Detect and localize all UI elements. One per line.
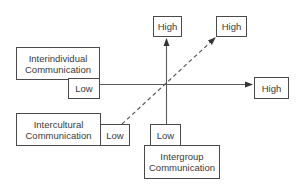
interindividual-low-box: Low: [68, 78, 100, 99]
intergroup-label-box: Intergroup Communication: [144, 145, 220, 179]
intergroup-high-label: High: [158, 21, 178, 32]
intergroup-label-line1: Intergroup: [149, 151, 215, 162]
intergroup-high-box: High: [153, 16, 182, 37]
intercultural-label-box: Intercultural Communication: [16, 113, 101, 146]
interindividual-label-box: Interindividual Communication: [16, 47, 100, 80]
intergroup-label-line2: Communication: [149, 162, 215, 173]
intercultural-high-label: High: [222, 21, 242, 32]
intercultural-low-box: Low: [100, 124, 130, 146]
interindividual-high-box: High: [254, 77, 289, 99]
interindividual-high-label: High: [262, 83, 282, 94]
intercultural-label-line1: Intercultural: [26, 119, 92, 130]
intercultural-label-line2: Communication: [26, 130, 92, 141]
intercultural-high-box: High: [216, 16, 247, 37]
interindividual-label-line2: Communication: [25, 64, 91, 75]
interindividual-label-line1: Interindividual: [25, 53, 91, 64]
interindividual-low-label: Low: [75, 83, 92, 94]
three-axis-communication-diagram: Interindividual Communication Low High H…: [0, 0, 301, 191]
intergroup-low-box: Low: [150, 124, 181, 146]
intergroup-low-label: Low: [157, 130, 174, 141]
intercultural-low-label: Low: [106, 130, 123, 141]
intercultural-axis-line: [122, 38, 215, 124]
